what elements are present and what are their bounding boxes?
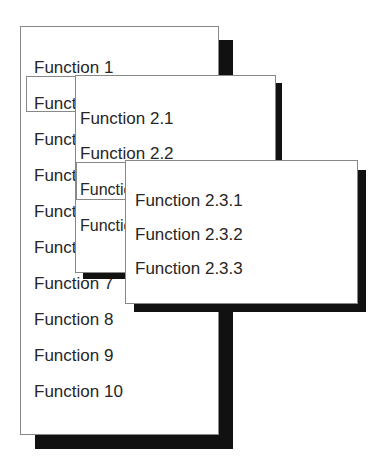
- menu2-item-1[interactable]: Function 2.1: [80, 109, 174, 129]
- menu1-item-10[interactable]: Function 10: [34, 382, 123, 402]
- menu3-item-1[interactable]: Function 2.3.1: [135, 191, 243, 211]
- menu3-item-2[interactable]: Function 2.3.2: [135, 225, 243, 245]
- menu1-item-8[interactable]: Function 8: [34, 310, 113, 330]
- menu1-item-9[interactable]: Function 9: [34, 346, 113, 366]
- menu-level-3: Function 2.3.1 Function 2.3.2 Function 2…: [125, 160, 358, 304]
- menu3-item-3[interactable]: Function 2.3.3: [135, 259, 243, 279]
